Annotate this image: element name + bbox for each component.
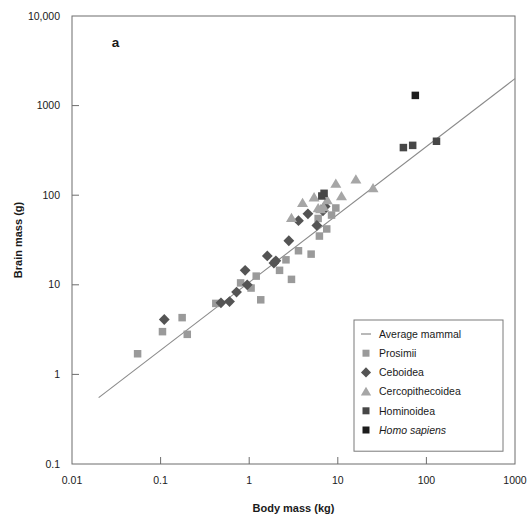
data-point bbox=[336, 191, 347, 200]
data-point bbox=[433, 138, 441, 146]
x-tick-label: 0.01 bbox=[62, 474, 83, 486]
y-axis-ticks: 0.1110100100010,000 bbox=[28, 10, 79, 470]
scatter-plot-brain-vs-body-mass: 0.1110100100010,000 0.010.11101001000 a … bbox=[0, 0, 531, 525]
data-point bbox=[231, 287, 242, 298]
series-prosimii bbox=[134, 204, 340, 357]
data-point bbox=[288, 276, 296, 284]
x-axis-ticks: 0.010.11101001000 bbox=[62, 457, 527, 486]
y-tick-label: 10,000 bbox=[28, 10, 60, 22]
legend-item-cercopithecoidea: Cercopithecoidea bbox=[361, 385, 461, 397]
average-mammal-trendline bbox=[99, 79, 515, 398]
square-legend-marker-icon bbox=[363, 350, 370, 357]
data-point bbox=[303, 208, 314, 219]
data-point bbox=[328, 211, 336, 219]
legend-item-hominoidea: Hominoidea bbox=[363, 405, 436, 417]
data-point bbox=[320, 190, 328, 198]
diamond-legend-marker-icon bbox=[361, 367, 371, 377]
legend-item-average-mammal: Average mammal bbox=[361, 328, 461, 340]
data-point bbox=[309, 192, 320, 201]
data-point bbox=[178, 314, 186, 322]
data-point bbox=[184, 331, 192, 339]
y-tick-label: 10 bbox=[48, 278, 60, 290]
data-point bbox=[307, 250, 315, 258]
data-point bbox=[295, 247, 303, 255]
data-point bbox=[276, 267, 284, 275]
legend-label: Average mammal bbox=[379, 328, 461, 340]
series-ceboidea bbox=[159, 201, 331, 325]
data-point bbox=[257, 296, 265, 304]
data-point bbox=[400, 144, 408, 152]
legend-item-prosimii: Prosimii bbox=[363, 347, 417, 359]
data-point bbox=[283, 235, 294, 246]
data-point bbox=[240, 265, 251, 276]
panel-label: a bbox=[112, 35, 120, 50]
data-point bbox=[159, 328, 167, 336]
square-legend-marker-icon bbox=[363, 407, 370, 414]
series-homo-sapiens bbox=[412, 92, 420, 100]
legend-item-ceboidea: Ceboidea bbox=[361, 366, 424, 378]
data-points-layer bbox=[134, 92, 440, 358]
y-tick-label: 1000 bbox=[37, 99, 61, 111]
x-tick-label: 1000 bbox=[503, 474, 527, 486]
data-point bbox=[412, 92, 420, 100]
data-point bbox=[330, 178, 341, 187]
y-tick-label: 0.1 bbox=[45, 458, 60, 470]
legend-label: Hominoidea bbox=[379, 405, 435, 417]
trendline-average-mammal bbox=[99, 79, 515, 398]
data-point bbox=[282, 256, 290, 264]
data-point bbox=[159, 314, 170, 325]
triangle-legend-marker-icon bbox=[361, 387, 371, 396]
y-axis-title: Brain mass (g) bbox=[12, 201, 24, 278]
data-point bbox=[332, 204, 340, 212]
y-tick-label: 1 bbox=[54, 368, 60, 380]
data-point bbox=[323, 225, 331, 233]
x-tick-label: 1 bbox=[246, 474, 252, 486]
data-point bbox=[350, 174, 361, 183]
x-tick-label: 0.1 bbox=[153, 474, 168, 486]
x-axis-title: Body mass (kg) bbox=[253, 502, 335, 514]
x-tick-label: 100 bbox=[418, 474, 436, 486]
data-point bbox=[134, 350, 142, 358]
data-point bbox=[252, 272, 260, 280]
legend-label: Ceboidea bbox=[379, 366, 424, 378]
figure-panel-a: 0.1110100100010,000 0.010.11101001000 a … bbox=[0, 0, 531, 525]
data-point bbox=[297, 198, 308, 207]
legend-label: Homo sapiens bbox=[379, 424, 447, 436]
legend: Average mammalProsimiiCeboideaCercopithe… bbox=[354, 320, 503, 451]
legend-label: Cercopithecoidea bbox=[379, 385, 461, 397]
legend-label: Prosimii bbox=[379, 347, 416, 359]
data-point bbox=[409, 142, 417, 150]
y-tick-label: 100 bbox=[42, 189, 60, 201]
square-legend-marker-icon bbox=[363, 427, 370, 434]
data-point bbox=[316, 232, 324, 240]
legend-item-homo-sapiens: Homo sapiens bbox=[363, 424, 447, 436]
data-point bbox=[286, 213, 297, 222]
data-point bbox=[262, 251, 273, 262]
x-tick-label: 10 bbox=[332, 474, 344, 486]
data-point bbox=[314, 215, 322, 223]
series-hominoidea bbox=[318, 138, 440, 200]
data-point bbox=[224, 296, 235, 307]
